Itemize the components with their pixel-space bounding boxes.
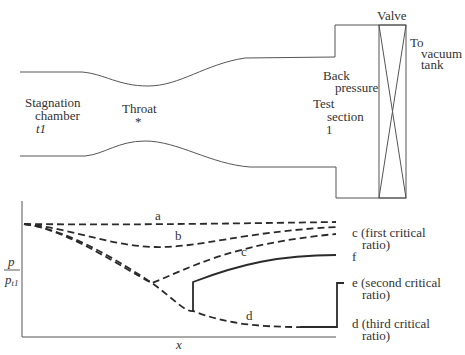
curve-f [193,255,336,311]
section-1-label: 1 [326,122,333,137]
label-d-inline: d [246,308,253,323]
nozzle-labels: Stagnation chamber t1 Throat * Back pres… [25,8,462,137]
label-f-right: f [352,249,357,264]
x-axis-label: x [175,337,182,352]
label-c-inline: c [241,244,247,259]
curve-labels: a b c d [155,208,253,323]
curve-a [24,222,336,224]
label-e-right-2: ratio) [362,287,390,302]
valve-label: Valve [377,8,407,23]
throat-star: * [135,114,142,129]
label-b: b [175,228,182,243]
curve-right-labels: c (first critical ratio) f e (second cri… [352,225,441,343]
t1-label: t1 [36,121,46,136]
label-c-right-2: ratio) [362,237,390,252]
valve [379,25,406,198]
section-label: section [327,109,364,124]
ylabel-denominator: pt1 [4,272,19,288]
y-axis-label: p pt1 [4,254,20,288]
pressure-curves [24,222,344,327]
label-d-right-2: ratio) [362,328,390,343]
label-a: a [155,208,161,223]
tank-label: tank [421,57,444,72]
pressure-label: pressure [335,80,379,95]
plot-axes [22,201,336,337]
nozzle-diagram: Stagnation chamber t1 Throat * Back pres… [0,0,465,355]
ylabel-numerator: p [7,254,15,269]
nozzle-bottom-wall [20,141,406,198]
curve-e [300,283,344,327]
